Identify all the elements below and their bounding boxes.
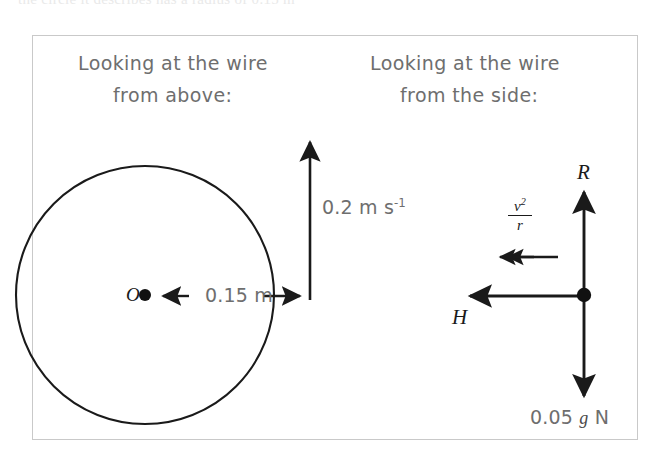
acceleration-numerator: v2	[505, 196, 535, 215]
speed-label-value: 0.2 m s	[322, 196, 394, 218]
speed-label-exponent: -1	[394, 196, 406, 210]
reaction-symbol-R: R	[577, 160, 590, 185]
figure-page: the circle it describes has a radius of …	[0, 0, 670, 470]
acceleration-numerator-exponent: 2	[521, 196, 526, 207]
weight-label-unit: N	[595, 406, 609, 428]
weight-label-value: 0.05	[530, 406, 573, 428]
acceleration-expression: v2 r	[505, 196, 535, 233]
weight-label: 0.05 g N	[530, 406, 609, 429]
radius-label: 0.15 m	[205, 284, 273, 306]
caption-left-line2: from above:	[113, 84, 232, 106]
centre-symbol-O: O	[126, 284, 140, 306]
speed-label: 0.2 m s-1	[322, 196, 406, 218]
weight-label-g-symbol: g	[579, 408, 588, 428]
acceleration-numerator-variable: v	[514, 198, 521, 214]
caption-right-line1: Looking at the wire	[370, 52, 560, 74]
fraction-bar	[508, 215, 532, 216]
caption-right-line2: from the side:	[400, 84, 538, 106]
acceleration-denominator: r	[505, 217, 535, 233]
scan-top-cut-text: the circle it describes has a radius of …	[18, 0, 652, 7]
horizontal-force-symbol-H: H	[452, 305, 467, 330]
caption-left-line1: Looking at the wire	[78, 52, 268, 74]
